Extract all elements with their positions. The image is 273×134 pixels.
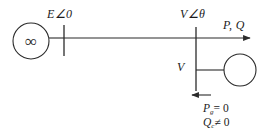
bus-voltage-angle-label: V∠θ	[180, 8, 205, 20]
infinity-icon: ∞	[25, 32, 37, 51]
pg-value: = 0	[214, 102, 229, 114]
synchronous-condenser-circle	[224, 54, 256, 86]
reactive-power-condenser-label: Qc≠ 0	[203, 117, 229, 129]
source-voltage-label: E∠0	[47, 8, 72, 20]
power-flow-label: P, Q	[223, 19, 245, 31]
real-power-generation-label: Pg= 0	[203, 103, 229, 115]
pg-symbol: P	[203, 102, 210, 114]
qc-value: ≠ 0	[214, 116, 229, 128]
one-line-diagram: ∞ E∠0 V∠θ P, Q V Pg= 0 Qc≠ 0	[0, 0, 273, 134]
bus-voltage-label: V	[177, 61, 184, 73]
